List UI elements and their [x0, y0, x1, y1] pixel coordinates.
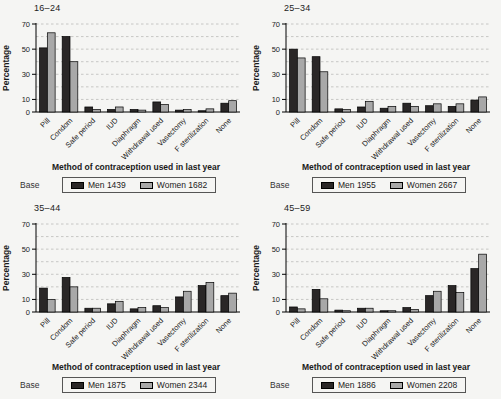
legend-row: Base Men 1955Women 2667 — [250, 177, 501, 193]
x-tick-label: IUD — [104, 316, 120, 332]
bar-men — [380, 108, 388, 112]
legend-row: Base Men 1875Women 2344 — [0, 377, 250, 393]
bar-women — [433, 104, 441, 112]
y-tick-label: 70 — [22, 220, 30, 229]
bar-women — [93, 308, 101, 312]
y-tick-label: 30 — [22, 270, 30, 279]
bar-men — [176, 110, 184, 112]
y-tick-label: 50 — [272, 245, 280, 254]
x-tick-label: Pill — [288, 316, 302, 330]
bar-men — [448, 106, 456, 112]
bar-men — [312, 57, 320, 112]
legend-row: Base Men 1886Women 2208 — [250, 377, 501, 393]
chart-title: 25–34 — [284, 3, 501, 14]
legend-label: Women 2208 — [407, 380, 457, 390]
bar-women — [433, 291, 441, 312]
chart-panel-16-24: 16–24 010305070PercentagePillCondomSafe … — [0, 0, 250, 200]
y-tick-label: 70 — [272, 220, 280, 229]
bar-women — [183, 291, 191, 312]
legend-item-women: Women 2667 — [390, 180, 457, 190]
legend-item-men: Men 1439 — [71, 180, 126, 190]
x-tick-label: None — [464, 116, 483, 135]
bar-women — [297, 58, 305, 112]
bar-men — [40, 288, 48, 312]
bar-women — [479, 254, 487, 312]
bar-women — [411, 106, 419, 112]
legend-label: Women 2344 — [157, 380, 207, 390]
x-tick-label: IUD — [354, 116, 370, 132]
bar-men — [358, 308, 366, 312]
bar-men — [403, 103, 411, 112]
chart-panel-25-34: 25–34 010305070PercentagePillCondomSafe … — [250, 0, 501, 200]
bar-chart-25-34: 010305070PercentagePillCondomSafe period… — [250, 14, 500, 160]
y-axis-title: Percentage — [251, 245, 261, 291]
legend-label: Men 1875 — [88, 380, 126, 390]
legend: Men 1886Women 2208 — [312, 377, 466, 393]
legend-label: Men 1439 — [88, 180, 126, 190]
bar-women — [138, 110, 146, 112]
y-tick-label: 70 — [22, 20, 30, 29]
bar-women — [47, 299, 55, 312]
chart-panel-45-59: 45–59 010305070PercentagePillCondomSafe … — [250, 200, 501, 399]
bar-men — [198, 111, 206, 112]
y-tick-label: 0 — [276, 108, 280, 117]
bar-men — [62, 37, 70, 112]
x-tick-label: None — [214, 316, 233, 335]
bar-women — [70, 62, 78, 112]
bar-chart-16-24: 010305070PercentagePillCondomSafe period… — [0, 14, 250, 160]
legend-item-men: Men 1955 — [321, 180, 376, 190]
contraception-charts-figure: 16–24 010305070PercentagePillCondomSafe … — [0, 0, 501, 399]
x-axis-title: Method of contraception used in last yea… — [280, 362, 492, 373]
bar-women — [297, 309, 305, 312]
legend-swatch-men — [71, 182, 84, 189]
bar-women — [411, 309, 419, 312]
legend: Men 1955Women 2667 — [312, 177, 466, 193]
bar-women — [320, 72, 328, 112]
legend-swatch-men — [71, 382, 84, 389]
x-axis-title: Method of contraception used in last yea… — [280, 162, 492, 173]
bar-women — [183, 109, 191, 112]
bar-women — [320, 299, 328, 312]
legend-item-women: Women 1682 — [140, 180, 207, 190]
base-label: Base — [20, 380, 62, 390]
legend-swatch-women — [390, 382, 403, 389]
chart-title: 45–59 — [284, 203, 501, 214]
bar-women — [365, 101, 373, 112]
bar-women — [138, 308, 146, 312]
legend-item-women: Women 2208 — [390, 380, 457, 390]
y-tick-label: 0 — [26, 108, 30, 117]
bar-men — [380, 311, 388, 312]
legend-label: Men 1955 — [338, 180, 376, 190]
legend-row: Base Men 1439Women 1682 — [0, 177, 250, 193]
y-tick-label: 50 — [22, 45, 30, 54]
y-tick-label: 50 — [272, 45, 280, 54]
bar-men — [448, 286, 456, 312]
x-tick-label: Pill — [288, 116, 302, 130]
bar-men — [153, 306, 161, 312]
legend-swatch-women — [390, 182, 403, 189]
bar-men — [130, 309, 138, 312]
legend-item-men: Men 1875 — [71, 380, 126, 390]
bar-men — [198, 286, 206, 312]
y-tick-label: 10 — [22, 295, 30, 304]
bar-men — [290, 307, 298, 312]
x-tick-label: Pill — [38, 116, 52, 130]
x-tick-label: IUD — [354, 316, 370, 332]
bar-men — [290, 49, 298, 112]
bar-men — [312, 289, 320, 312]
y-tick-label: 10 — [272, 95, 280, 104]
legend-label: Women 2667 — [407, 180, 457, 190]
x-axis-title: Method of contraception used in last yea… — [30, 162, 242, 173]
bar-women — [343, 109, 351, 112]
bar-women — [206, 109, 214, 112]
bar-women — [47, 33, 55, 112]
bar-women — [456, 293, 464, 312]
y-tick-label: 10 — [22, 95, 30, 104]
bar-women — [365, 308, 373, 312]
y-axis-title: Percentage — [1, 45, 11, 91]
y-axis-title: Percentage — [251, 45, 261, 91]
bar-men — [403, 308, 411, 312]
legend-item-women: Women 2344 — [140, 380, 207, 390]
bar-women — [115, 301, 123, 312]
y-tick-label: 10 — [272, 295, 280, 304]
